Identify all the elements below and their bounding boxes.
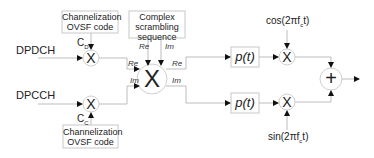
carrier-sin-label: sin(2πfct) (268, 132, 308, 144)
code-cc-label: CC (77, 114, 89, 126)
carrier-cos-label: cos(2πfct) (266, 16, 309, 28)
ovsf-top-line2: OVSF code (62, 22, 118, 32)
pulse-top-label: p(t) (231, 50, 259, 63)
input-im-label: Im (130, 77, 139, 85)
output-im-label: Im (172, 77, 181, 85)
pulse-bottom-label: p(t) (231, 96, 259, 109)
scrambling-im-label: Im (165, 43, 174, 51)
scrambling-line2: scrambling (129, 22, 185, 32)
scrambling-label: Complex scrambling sequence (129, 12, 185, 42)
ovsf-bottom-line1: Channelization (63, 127, 118, 137)
ovsf-top-label: Channelization OVSF code (62, 12, 118, 32)
scrambling-re-label: Re (139, 43, 149, 51)
input-re-label: Re (128, 60, 138, 68)
carrier-sin-text: sin(2πf (268, 131, 299, 142)
ovsf-bottom-label: Channelization OVSF code (63, 127, 118, 147)
output-re-label: Re (172, 60, 182, 68)
carrier-cos-text: cos(2πf (266, 15, 300, 26)
complex-multiply-symbol: X (140, 67, 164, 91)
dpcch-label: DPCCH (16, 90, 55, 101)
mixer-cos-symbol: X (280, 50, 294, 64)
carrier-sin-tail: t) (302, 131, 308, 142)
code-cd-label: CD (77, 38, 89, 50)
ovsf-bottom-line2: OVSF code (63, 137, 118, 147)
scrambling-line3: sequence (129, 32, 185, 42)
dpdch-label: DPDCH (16, 45, 55, 56)
multiply-dpcch-symbol: X (84, 97, 98, 111)
multiply-dpdch-symbol: X (84, 51, 98, 65)
ovsf-top-line1: Channelization (62, 12, 118, 22)
adder-symbol: + (320, 68, 342, 88)
mixer-sin-symbol: X (280, 95, 294, 109)
diagram-canvas (0, 0, 374, 158)
scrambling-line1: Complex (129, 12, 185, 22)
code-cc-sub: C (84, 120, 88, 126)
carrier-cos-tail: t) (303, 15, 309, 26)
